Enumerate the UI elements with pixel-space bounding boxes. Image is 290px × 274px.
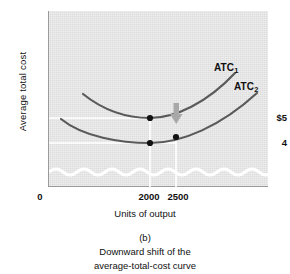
y-axis-title: Average total cost (17, 32, 28, 152)
shift-arrow-icon (170, 103, 183, 124)
x-tick-label-2500: 2500 (159, 191, 197, 202)
chart-canvas (49, 11, 269, 187)
curve-label-atc1: ATC1 (214, 62, 238, 73)
x-axis-title: Units of output (0, 208, 290, 219)
figure-caption-line-2: average-total-cost curve (0, 259, 290, 273)
curve-atc1 (83, 73, 235, 118)
curve-label-atc1-text: ATC (214, 62, 234, 73)
figure-panel-label: (b) (0, 231, 290, 245)
curve-label-atc2: ATC2 (234, 81, 258, 92)
figure-caption: (b) Downward shift of the average-total-… (0, 231, 290, 273)
axis-break-wave (49, 169, 269, 175)
curve-label-atc1-subscript: 1 (234, 66, 238, 75)
x-tick-label-0: 0 (33, 191, 47, 202)
curve-label-atc2-text: ATC (234, 81, 254, 92)
figure-caption-line-1: Downward shift of the (0, 245, 290, 259)
plot-area (48, 11, 268, 187)
marker-atc2-q2500 (173, 134, 179, 140)
curve-label-atc2-subscript: 2 (254, 85, 258, 94)
figure-panel-b: Average total cost $5 4 (0, 0, 290, 274)
marker-atc2-q2000 (147, 140, 153, 146)
marker-atc1-q2000 (147, 115, 153, 121)
